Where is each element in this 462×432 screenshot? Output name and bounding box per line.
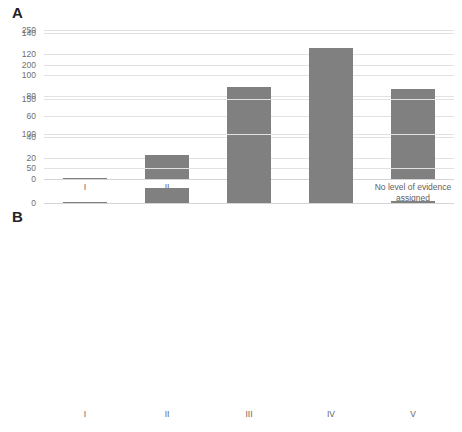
bar-b-4 xyxy=(309,59,353,203)
y-tick-label: 200 xyxy=(22,60,36,70)
x-tick-label: V xyxy=(372,409,454,420)
x-tick-label: IV xyxy=(290,409,372,420)
bar-b-2 xyxy=(145,188,189,203)
y-tick-label: 50 xyxy=(27,163,36,173)
y-tick-label: 100 xyxy=(22,129,36,139)
panel-b-y-axis: 050100150200250 xyxy=(0,30,40,203)
y-tick-label: 150 xyxy=(22,94,36,104)
bar-slot xyxy=(372,30,454,203)
bar-slot xyxy=(208,30,290,203)
y-tick-label: 0 xyxy=(31,198,36,208)
bar-b-1 xyxy=(63,202,107,203)
bar-slot xyxy=(290,30,372,203)
panel-b-x-axis: IIIIIIIVV xyxy=(44,409,454,420)
x-tick-label: I xyxy=(44,409,126,420)
bar-slot xyxy=(44,30,126,203)
x-tick-label: II xyxy=(126,409,208,420)
panel-b-plot-area xyxy=(44,30,454,203)
panel-a-label: A xyxy=(12,4,23,21)
figure-two-panel-bar-charts: A 020406080100120140 IIIIIIIVNo level of… xyxy=(0,0,462,432)
panel-b-label: B xyxy=(12,208,23,225)
x-tick-label: III xyxy=(208,409,290,420)
bar-b-3 xyxy=(227,141,271,203)
panel-b-bars xyxy=(44,30,454,203)
gridline xyxy=(44,203,454,204)
y-tick-label: 250 xyxy=(22,25,36,35)
bar-b-5 xyxy=(391,201,435,203)
bar-slot xyxy=(126,30,208,203)
panel-b: B xyxy=(0,205,462,432)
